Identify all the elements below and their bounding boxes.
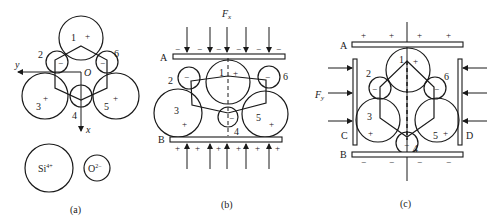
electrode-plate-c	[353, 59, 357, 145]
atom-3-charge: +	[368, 128, 373, 138]
caption-b: (b)	[221, 199, 233, 211]
atom-5-charge: +	[443, 128, 448, 138]
atom-3-charge: +	[182, 119, 187, 129]
atom-3-label: 3	[36, 101, 41, 112]
charge-sign: +	[389, 30, 394, 40]
charge-sign: +	[361, 30, 366, 40]
atom-6-label: 6	[283, 71, 288, 82]
charge-sign: −	[216, 44, 221, 54]
charge-sign: +	[446, 30, 451, 40]
caption-a: (a)	[70, 204, 81, 216]
atom-6-label: 6	[444, 71, 449, 82]
charge-sign: −	[175, 44, 180, 54]
atom-3-charge: +	[43, 93, 48, 103]
si-ion-label: Si4+	[38, 163, 53, 174]
atom-3-label: 3	[174, 105, 179, 116]
atom-6-charge: −	[265, 72, 270, 82]
charge-sign: −	[389, 157, 394, 167]
charge-sign: +	[175, 143, 180, 153]
atom-6-label: 6	[114, 48, 119, 59]
charge-sign: −	[256, 44, 261, 54]
atom-5-charge: +	[269, 119, 274, 129]
y-axis-label: y	[14, 59, 20, 70]
atom-1-charge: +	[233, 68, 238, 78]
x-axis-label: x	[85, 124, 91, 135]
plate-a-label: A	[340, 40, 348, 51]
atom-5-label: 5	[104, 101, 109, 112]
charge-sign: −	[236, 44, 241, 54]
charge-sign: −	[276, 44, 281, 54]
charge-sign: +	[417, 30, 422, 40]
atom-1-label: 1	[219, 67, 224, 78]
charge-sign: +	[236, 143, 241, 153]
atom-5-circle	[242, 91, 288, 137]
electrode-plate-a	[352, 42, 463, 47]
charge-sign: −	[446, 157, 451, 167]
charge-sign: −	[197, 44, 202, 54]
plate-b-label: B	[340, 149, 347, 160]
atom-2-charge: −	[184, 72, 189, 82]
force-arrows-right	[463, 68, 487, 121]
atom-4-label: 4	[72, 110, 77, 121]
panel-c: + + + + A C D Fy	[314, 22, 487, 210]
atom-1-charge: +	[85, 31, 90, 41]
atom-3-label: 3	[367, 111, 372, 122]
atom-4-charge: −	[404, 140, 409, 150]
origin-label: O	[84, 67, 91, 78]
atom-1-circle	[59, 16, 103, 60]
atom-5-label: 5	[433, 130, 438, 141]
atom-6-charge: −	[100, 58, 105, 68]
plate-d-label: D	[466, 130, 473, 141]
charge-sign: +	[255, 143, 260, 153]
atom-2-label: 2	[366, 68, 371, 79]
atom-2-label: 2	[168, 75, 173, 86]
atom-2-charge: −	[58, 58, 63, 68]
atom-1-circle	[386, 48, 430, 92]
quartz-piezoelectric-diagram: y x O 1 + 2 − 3 + 4 5 + 6 − Si4+ O2− (a)…	[0, 0, 492, 222]
atom-3-circle	[356, 98, 400, 142]
force-arrows-left	[328, 68, 352, 121]
atom-5-label: 5	[256, 112, 261, 123]
panel-b: Fx − − − − − − A 1 + 2 − 3	[154, 8, 288, 211]
plate-b-label: B	[158, 134, 165, 145]
panel-a: y x O 1 + 2 − 3 + 4 5 + 6 − Si4+ O2− (a)	[14, 16, 139, 216]
charge-sign: +	[216, 143, 221, 153]
force-fy-label: Fy	[314, 89, 325, 102]
force-fx-label: Fx	[221, 8, 232, 21]
caption-c: (c)	[400, 198, 411, 210]
o-ion-label: O2−	[88, 163, 102, 174]
electrode-plate-b	[170, 137, 282, 142]
charge-sign: +	[275, 143, 280, 153]
atom-1-label: 1	[71, 32, 76, 43]
charge-sign: −	[417, 157, 422, 167]
atom-1-charge: +	[413, 56, 418, 66]
atom-4-charge: −	[229, 113, 234, 123]
atom-1-label: 1	[399, 54, 404, 65]
electrode-plate-d	[458, 59, 462, 145]
atom-4-label: 4	[234, 126, 239, 137]
charge-sign: +	[195, 143, 200, 153]
charge-sign: −	[361, 157, 366, 167]
plate-c-label: C	[341, 130, 348, 141]
electrode-plate-a	[173, 54, 285, 59]
atom-5-charge: +	[113, 93, 118, 103]
atom-2-label: 2	[38, 49, 43, 60]
plate-a-label: A	[160, 52, 168, 63]
atom-2-charge: −	[372, 84, 377, 94]
atom-6-charge: −	[434, 84, 439, 94]
